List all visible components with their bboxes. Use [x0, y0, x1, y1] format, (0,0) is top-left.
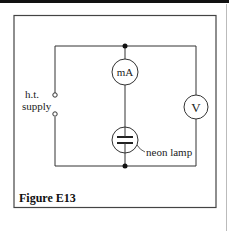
circuit-diagram: h.t. supply mA neon lamp V Figure E13: [0, 0, 229, 231]
junction-dot-top: [123, 44, 128, 49]
supply-terminal-positive: [53, 93, 57, 97]
voltmeter-label: V: [191, 100, 201, 115]
ammeter-label: mA: [117, 66, 134, 78]
supply-label-line1: h.t.: [25, 88, 39, 100]
supply-terminal-negative: [53, 112, 57, 116]
neon-lamp-label: neon lamp: [146, 146, 193, 158]
junction-dot-bottom: [123, 164, 128, 169]
supply-label-line2: supply: [22, 100, 52, 112]
neon-lamp-leader-line: [137, 145, 145, 152]
figure-caption: Figure E13: [19, 191, 76, 205]
